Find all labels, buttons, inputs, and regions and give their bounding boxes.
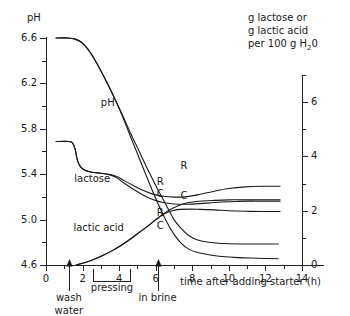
- curve-lactic-acid-c: [76, 209, 280, 265]
- left-tick-label-5.4: 5.4: [21, 168, 37, 179]
- x-tick-label-8: 8: [189, 273, 195, 284]
- right-axis-title-line3: per 100 g H20: [248, 38, 318, 53]
- ph-curve-label: pH: [101, 97, 115, 108]
- wash-water-marker-label-line1: wash: [56, 292, 82, 303]
- x-tick-label-14: 14: [296, 273, 309, 284]
- left-tick-label-5.8: 5.8: [21, 123, 37, 134]
- x-tick-label-2: 2: [79, 273, 85, 284]
- left-tick-label-6.2: 6.2: [21, 77, 37, 88]
- series-label-lactic-acid-r: R: [157, 207, 164, 218]
- right-tick-label-4: 4: [311, 150, 317, 161]
- series-label-ph-c: C: [180, 190, 187, 201]
- left-tick-label-6.6: 6.6: [21, 32, 37, 43]
- right-axis-title-line3-pre: per 100 g H: [248, 38, 307, 49]
- axes-group: [40, 37, 324, 271]
- wash-water-marker-arrowhead: [66, 259, 72, 267]
- x-tick-label-12: 12: [259, 273, 272, 284]
- left-axis-title: pH: [27, 12, 41, 23]
- right-tick-label-2: 2: [311, 205, 317, 216]
- wash-water-marker-label-line2: water: [55, 305, 84, 316]
- curve-lactose-r: [56, 141, 280, 197]
- left-tick-label-4.6: 4.6: [21, 259, 37, 270]
- lactic-acid-curve-label: lactic acid: [73, 222, 124, 233]
- in-brine-marker-arrowhead: [155, 259, 161, 267]
- series-label-lactose-r: R: [157, 176, 164, 187]
- x-tick-label-0: 0: [43, 273, 49, 284]
- right-axis-title-line3-post: 0: [312, 38, 318, 49]
- right-axis-title-line1: g lactose or: [248, 12, 307, 23]
- right-tick-label-6: 6: [311, 96, 317, 107]
- left-tick-label-5.0: 5.0: [21, 214, 37, 225]
- series-label-lactose-c: C: [157, 188, 164, 199]
- x-tick-label-10: 10: [222, 273, 235, 284]
- curve-ph-r: [56, 38, 278, 244]
- in-brine-marker-label: in brine: [139, 292, 177, 303]
- series-label-ph-r: R: [180, 160, 187, 171]
- series-label-lactic-acid-c: C: [157, 220, 164, 231]
- pressing-bracket-label: pressing: [91, 282, 133, 293]
- pressing-bracket-bracket-shape: [94, 269, 131, 281]
- right-tick-label-0: 0: [311, 259, 317, 270]
- right-axis-title-line2: g lactic acid: [248, 25, 308, 36]
- x-tick-label-6: 6: [153, 273, 159, 284]
- lactose-curve-label: lactose: [74, 173, 110, 184]
